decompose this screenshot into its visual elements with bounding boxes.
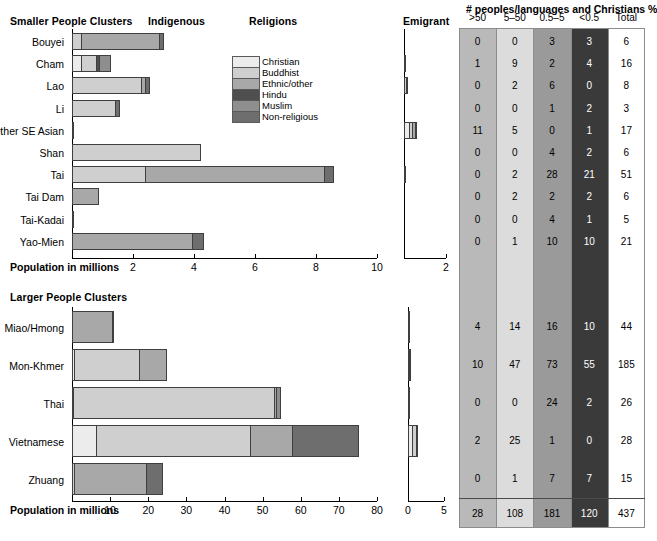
table-cell: 21: [571, 169, 608, 180]
table-cell: 73: [533, 359, 570, 370]
table-total-rule: [459, 498, 645, 499]
table-cell: 1: [459, 58, 496, 69]
table-cell: 10: [459, 359, 496, 370]
table-column-header: Total: [608, 12, 645, 23]
table-column-header: 0.5–5: [533, 12, 570, 23]
table-cell: 0: [459, 36, 496, 47]
table-cell: 5: [608, 214, 645, 225]
bar-segment: [408, 387, 410, 419]
table-cell: 0: [533, 125, 570, 136]
table-cell: 0: [496, 147, 533, 158]
table-cell: 120: [571, 508, 608, 519]
table-cell: 28: [608, 435, 645, 446]
table-cell: 24: [533, 397, 570, 408]
table-cell: 0: [459, 214, 496, 225]
table-cell: 0: [571, 80, 608, 91]
table-cell: 0: [496, 397, 533, 408]
x-axis-tick: [444, 497, 445, 501]
table-cell: 2: [496, 169, 533, 180]
x-axis-tick: [408, 497, 409, 501]
table-cell: 4: [571, 58, 608, 69]
table-cell: 15: [608, 473, 645, 484]
table-cell: 0: [459, 236, 496, 247]
table-cell: 6: [608, 147, 645, 158]
table-cell: 2: [571, 191, 608, 202]
table-cell: 3: [608, 103, 645, 114]
table-cell: 108: [496, 508, 533, 519]
table-cell: 16: [608, 58, 645, 69]
table-cell: 0: [459, 80, 496, 91]
table-cell: 185: [608, 359, 645, 370]
table-cell: 8: [608, 80, 645, 91]
table-cell: 0: [459, 103, 496, 114]
table-cell: 0: [496, 214, 533, 225]
table-cell: 2: [571, 147, 608, 158]
table-cell: 2: [533, 191, 570, 202]
table-cell: 0: [496, 36, 533, 47]
table-cell: 16: [533, 321, 570, 332]
table-cell: 44: [608, 321, 645, 332]
table-column-header: >50: [459, 12, 496, 23]
table-cell: 4: [533, 214, 570, 225]
table-cell: 9: [496, 58, 533, 69]
table-cell: 28: [459, 508, 496, 519]
table-cell: 21: [608, 236, 645, 247]
table-cell: 181: [533, 508, 570, 519]
table-cell: 2: [571, 397, 608, 408]
table-cell: 10: [571, 236, 608, 247]
table-cell: 437: [608, 508, 645, 519]
table-cell: 1: [533, 435, 570, 446]
table-cell: 0: [459, 397, 496, 408]
table-cell: 6: [608, 36, 645, 47]
bar-segment: [416, 425, 418, 457]
table-cell: 6: [608, 191, 645, 202]
table-cell: 2: [496, 191, 533, 202]
table-column-header: <0.5: [571, 12, 608, 23]
table-cell: 55: [571, 359, 608, 370]
table-cell: 1: [571, 125, 608, 136]
table-cell: 1: [571, 214, 608, 225]
table-cell: 2: [459, 435, 496, 446]
chart-larger-emigrant: 05: [0, 0, 460, 541]
table-cell: 2: [533, 58, 570, 69]
table-cell: 1: [533, 103, 570, 114]
table-cell: 1: [496, 473, 533, 484]
table-cell: 3: [533, 36, 570, 47]
table-cell: 2: [571, 103, 608, 114]
bar-segment: [408, 311, 410, 343]
table-cell: 7: [533, 473, 570, 484]
table-cell: 2: [496, 80, 533, 91]
x-axis-line: [408, 501, 444, 502]
bar-segment: [409, 349, 411, 381]
table-cell: 14: [496, 321, 533, 332]
table-cell: 51: [608, 169, 645, 180]
table-cell: 47: [496, 359, 533, 370]
table-cell: 4: [533, 147, 570, 158]
table-column-header: 5–50: [496, 12, 533, 23]
table-cell: 1: [496, 236, 533, 247]
table-cell: 0: [459, 191, 496, 202]
table-cell: 10: [533, 236, 570, 247]
table-cell: 0: [459, 147, 496, 158]
table-cell: 0: [459, 169, 496, 180]
table-cell: 28: [533, 169, 570, 180]
table-cell: 0: [571, 435, 608, 446]
table-cell: 3: [571, 36, 608, 47]
table-cell: 4: [459, 321, 496, 332]
table-cell: 26: [608, 397, 645, 408]
table-cell: 11: [459, 125, 496, 136]
table-cell: 7: [571, 473, 608, 484]
table-cell: 17: [608, 125, 645, 136]
table-cell: 0: [459, 473, 496, 484]
table-cell: 5: [496, 125, 533, 136]
table-cell: 25: [496, 435, 533, 446]
table-cell: 10: [571, 321, 608, 332]
table-cell: 6: [533, 80, 570, 91]
table-cell: 0: [496, 103, 533, 114]
